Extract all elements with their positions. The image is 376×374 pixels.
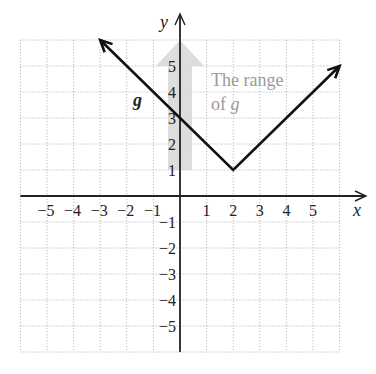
x-tick-label: −2 [117, 202, 134, 219]
range-annotation-var: g [231, 94, 240, 114]
function-name-label: g [132, 90, 142, 110]
x-tick-label: 4 [282, 202, 290, 219]
x-tick-label: −4 [64, 202, 81, 219]
x-tick-label: −3 [91, 202, 108, 219]
range-annotation-of: of [211, 94, 231, 114]
x-tick-label: −5 [37, 202, 54, 219]
x-tick-label: 5 [309, 202, 317, 219]
x-axis-label: x [352, 200, 361, 220]
y-tick-label: 1 [168, 162, 176, 179]
function-graph: −5−4−3−2−11234554321−1−2−3−4−5 y x g The… [0, 0, 376, 374]
y-tick-label: −4 [159, 292, 176, 309]
y-tick-label: −3 [159, 266, 176, 283]
y-tick-label: 5 [168, 58, 176, 75]
range-annotation-line2: of g [211, 94, 240, 114]
x-tick-label: 1 [203, 202, 211, 219]
y-tick-label: −1 [159, 214, 176, 231]
y-tick-label: −5 [159, 318, 176, 335]
x-tick-label: 3 [256, 202, 264, 219]
y-tick-label: 2 [168, 136, 176, 153]
y-tick-label: 4 [168, 84, 176, 101]
range-annotation-line1: The range [211, 70, 283, 90]
x-tick-label: 2 [229, 202, 237, 219]
y-tick-label: −2 [159, 240, 176, 257]
y-axis-label: y [158, 12, 168, 32]
